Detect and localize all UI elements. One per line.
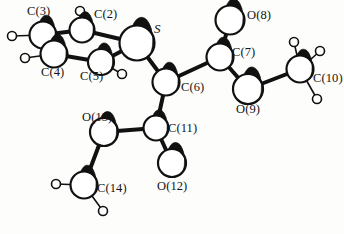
molecular-diagram-canvas: C(3)C(2)SC(4)C(5)C(6)O(8)C(7)O(9)C(10)O(… [0, 0, 344, 234]
atom-label-O12: O(12) [157, 180, 187, 193]
atom-O8 [216, 0, 245, 35]
atom-C7 [207, 37, 234, 70]
hydrogen-atom-H10a [290, 38, 299, 47]
atom-label-C3: C(3) [27, 5, 50, 18]
atom-label-C11: C(11) [168, 122, 197, 135]
atom-C2 [70, 12, 95, 43]
hydrogen-atom-H10b [316, 47, 325, 56]
atom-label-S1: S [154, 22, 161, 35]
atom-C14 [71, 165, 98, 198]
atom-label-O13: O(13) [82, 111, 112, 124]
atom-label-C4: C(4) [41, 66, 64, 79]
hydrogen-atom-H10c [313, 95, 322, 104]
hydrogen-atom-H14a [52, 180, 61, 189]
atom-label-O8: O(8) [247, 9, 271, 22]
atom-label-C5: C(5) [80, 70, 103, 83]
hydrogen-atom-H5 [118, 70, 127, 79]
atom-S1 [120, 17, 155, 60]
hydrogen-atom-H3 [8, 32, 17, 41]
atom-label-C7: C(7) [232, 46, 255, 59]
atom-label-C2: C(2) [94, 8, 117, 21]
atom-C11 [144, 110, 169, 141]
atom-O9 [233, 67, 263, 104]
atom-C10 [287, 49, 314, 82]
atom-label-C10: C(10) [313, 72, 343, 85]
atom-label-C14: C(14) [97, 182, 127, 195]
atom-label-C6: C(6) [181, 81, 204, 94]
molecule-svg [0, 0, 344, 234]
heavy-atom-layer [30, 0, 314, 198]
hydrogen-atom-H14b [99, 207, 108, 216]
hydrogen-atom-H4 [21, 54, 30, 63]
atom-label-O9: O(9) [236, 103, 260, 116]
atom-O12 [158, 142, 186, 177]
